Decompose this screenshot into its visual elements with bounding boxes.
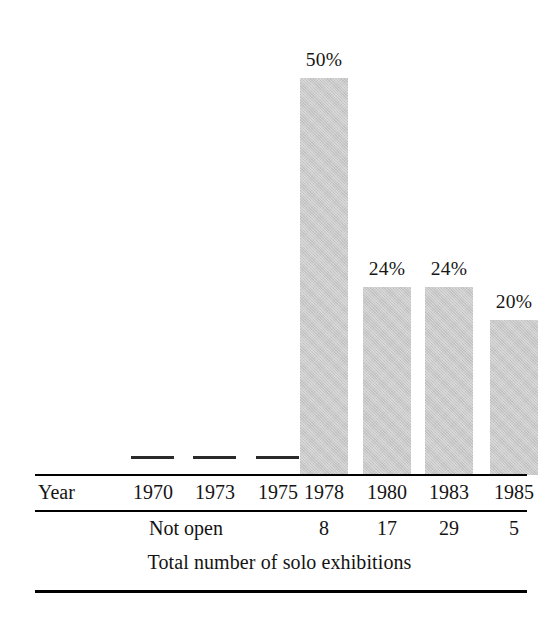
count-1978: 8 [293, 518, 355, 538]
count-1980: 17 [356, 518, 418, 538]
count-1985: 5 [483, 518, 545, 538]
count-1983: 29 [418, 518, 480, 538]
year-label-1970: 1970 [122, 482, 184, 502]
table-caption: Total number of solo exhibitions [0, 552, 559, 572]
year-label-1983: 1983 [418, 482, 480, 502]
data-table: Year 1970 1973 1975 1978 1980 1983 1985 … [0, 0, 559, 617]
year-label-1985: 1985 [483, 482, 545, 502]
bar-chart-figure: 50% 24% 24% 20% Year 1970 1973 1975 1978… [0, 0, 559, 617]
year-label-1973: 1973 [184, 482, 246, 502]
year-label-1978: 1978 [293, 482, 355, 502]
not-open-label: Not open [66, 518, 306, 538]
table-row-header-year: Year [38, 482, 75, 502]
year-label-1980: 1980 [356, 482, 418, 502]
